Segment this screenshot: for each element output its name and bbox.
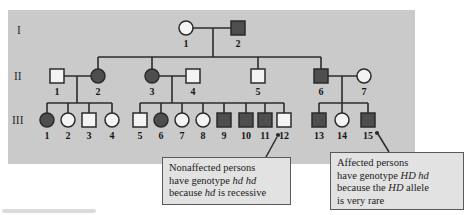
callout-nonaffected-genotype: Nonaffected personshave genotype hd hdbe… xyxy=(162,157,291,205)
person-label-II-7: 7 xyxy=(362,86,367,97)
person-label-III-8: 8 xyxy=(201,130,206,141)
person-III-3 xyxy=(82,113,96,127)
callout-text-line: because the HD allele xyxy=(337,182,457,195)
person-II-3 xyxy=(145,69,159,83)
callout-text-line: have genotype hd hd xyxy=(169,175,284,188)
person-label-III-15: 15 xyxy=(363,130,373,141)
person-label-III-14: 14 xyxy=(337,130,347,141)
person-III-13 xyxy=(312,113,326,127)
person-III-10 xyxy=(239,113,253,127)
callout-text-line: have genotype HD hd xyxy=(337,170,457,183)
callout-affected-genotype: Affected personshave genotype HD hdbecau… xyxy=(330,152,464,210)
person-label-III-7: 7 xyxy=(180,130,185,141)
person-I-2 xyxy=(231,21,245,35)
cropped-caption-fragment xyxy=(2,209,96,213)
person-I-1 xyxy=(179,21,193,35)
person-II-5 xyxy=(251,69,265,83)
person-label-II-1: 1 xyxy=(55,86,60,97)
person-label-II-4: 4 xyxy=(191,86,196,97)
pedigree-figure: IIIIII121234567123456789101112131415 Non… xyxy=(0,0,470,215)
person-label-II-6: 6 xyxy=(319,86,324,97)
person-label-III-12: 12 xyxy=(279,130,289,141)
generation-label-II: II xyxy=(14,70,22,82)
callout-text-line: Nonaffected persons xyxy=(169,162,284,175)
person-II-7 xyxy=(357,69,371,83)
generation-label-III: III xyxy=(12,114,24,126)
person-label-III-13: 13 xyxy=(314,130,324,141)
person-III-12 xyxy=(277,113,291,127)
person-III-11 xyxy=(258,113,272,127)
person-II-6 xyxy=(314,69,328,83)
callout-text-line: Affected persons xyxy=(337,157,457,170)
person-label-III-9: 9 xyxy=(222,130,227,141)
person-label-III-5: 5 xyxy=(138,130,143,141)
person-II-4 xyxy=(186,69,200,83)
person-label-III-1: 1 xyxy=(45,130,50,141)
person-label-III-2: 2 xyxy=(66,130,71,141)
person-label-II-5: 5 xyxy=(256,86,261,97)
callout-text-line: is very rare xyxy=(337,195,457,208)
person-II-1 xyxy=(50,69,64,83)
person-III-14 xyxy=(335,113,349,127)
person-III-15 xyxy=(361,113,375,127)
person-III-8 xyxy=(196,113,210,127)
person-label-III-10: 10 xyxy=(241,130,251,141)
person-III-5 xyxy=(133,113,147,127)
person-label-I-2: 2 xyxy=(236,38,241,49)
person-label-I-1: 1 xyxy=(184,38,189,49)
diagram-background-panel xyxy=(8,10,415,164)
person-III-2 xyxy=(61,113,75,127)
person-label-III-3: 3 xyxy=(87,130,92,141)
generation-label-I: I xyxy=(17,24,21,36)
callout-pointer-dot-2 xyxy=(375,131,379,135)
person-II-2 xyxy=(91,69,105,83)
person-III-6 xyxy=(154,113,168,127)
person-label-III-6: 6 xyxy=(159,130,164,141)
callout-text-line: because hd is recessive xyxy=(169,187,284,200)
person-III-9 xyxy=(217,113,231,127)
person-III-1 xyxy=(40,113,54,127)
person-label-II-2: 2 xyxy=(96,86,101,97)
person-label-III-11: 11 xyxy=(260,130,269,141)
person-label-III-4: 4 xyxy=(110,130,115,141)
person-III-4 xyxy=(105,113,119,127)
person-label-II-3: 3 xyxy=(150,86,155,97)
person-III-7 xyxy=(175,113,189,127)
